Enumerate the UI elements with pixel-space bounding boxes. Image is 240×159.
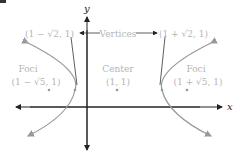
x-axis-label: x xyxy=(227,101,233,112)
corner-mark xyxy=(0,0,6,3)
right-foci-title: Foci xyxy=(186,64,205,74)
center-point xyxy=(116,89,119,92)
right-vertex-point xyxy=(161,89,164,92)
left-branch-lower xyxy=(28,90,75,136)
right-vertex-label: (1 + √2, 1) xyxy=(159,29,208,39)
center-coord: (1, 1) xyxy=(106,77,130,87)
left-foci-title: Foci xyxy=(18,64,37,74)
left-focus-point xyxy=(48,89,51,92)
vertices-label: Vertices xyxy=(99,29,137,39)
left-foci-coord: (1 − √5, 1) xyxy=(12,77,61,87)
left-vertex-label: (1 − √2, 1) xyxy=(25,29,74,39)
right-foci-coord: (1 + √5, 1) xyxy=(174,77,223,87)
center-title: Center xyxy=(102,64,134,74)
right-focus-point xyxy=(186,89,189,92)
y-axis-label: y xyxy=(83,3,90,14)
hyperbola-diagram: y x (1 − √2, 1) Vertices (1 + √2, 1) Foc… xyxy=(0,0,240,159)
left-vertex-point xyxy=(74,89,77,92)
right-branch-lower xyxy=(162,90,211,136)
